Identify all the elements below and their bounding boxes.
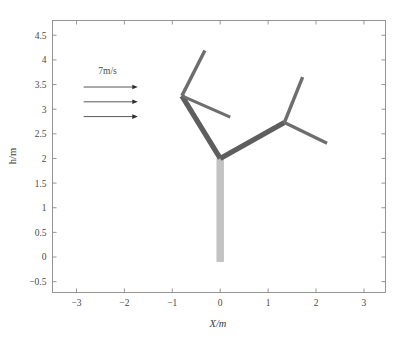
y-tick-label: 1.5 bbox=[35, 179, 47, 189]
wind-speed-label: 7m/s bbox=[98, 66, 117, 76]
wind-arrows-group bbox=[84, 85, 138, 119]
x-tick-label: −3 bbox=[71, 298, 81, 308]
structure-segment-right-upper-branch bbox=[284, 77, 302, 122]
x-tick-label: −2 bbox=[119, 298, 129, 308]
x-axis-tick-labels: −3−2−10123 bbox=[71, 298, 366, 308]
structure-series-group bbox=[182, 51, 327, 262]
y-tick-label: 2.5 bbox=[35, 129, 47, 139]
x-tick-label: 2 bbox=[314, 298, 319, 308]
y-axis-title: h/m bbox=[7, 148, 18, 164]
x-tick-label: 1 bbox=[266, 298, 271, 308]
x-tick-label: 0 bbox=[218, 298, 223, 308]
wind-arrow-head-3 bbox=[132, 114, 138, 119]
plot-canvas: −3−2−10123 −0.500.511.522.533.544.5 7m/s… bbox=[0, 0, 409, 342]
wind-arrow-head-1 bbox=[132, 85, 138, 90]
structure-segment-right-main-branch bbox=[220, 123, 284, 159]
annotations-group: 7m/s bbox=[98, 66, 117, 76]
x-axis-title: X/m bbox=[209, 318, 227, 329]
wind-arrow-head-2 bbox=[132, 100, 138, 105]
y-tick-label: 4.5 bbox=[35, 31, 47, 41]
wind-turbine-tree-chart: −3−2−10123 −0.500.511.522.533.544.5 7m/s… bbox=[0, 0, 409, 342]
x-tick-label: 3 bbox=[362, 298, 367, 308]
y-axis-tick-labels: −0.500.511.522.533.544.5 bbox=[29, 31, 46, 287]
y-tick-label: 2 bbox=[42, 154, 47, 164]
y-tick-label: 3 bbox=[42, 105, 47, 115]
structure-segment-right-lower-branch bbox=[284, 123, 327, 144]
y-tick-label: 1 bbox=[42, 203, 47, 213]
y-tick-label: −0.5 bbox=[29, 277, 46, 287]
x-tick-label: −1 bbox=[167, 298, 177, 308]
y-tick-label: 4 bbox=[42, 55, 47, 65]
structure-segment-left-upper-branch bbox=[182, 51, 205, 96]
y-tick-label: 3.5 bbox=[35, 80, 47, 90]
y-tick-label: 0.5 bbox=[35, 228, 47, 238]
y-tick-label: 0 bbox=[42, 252, 47, 262]
